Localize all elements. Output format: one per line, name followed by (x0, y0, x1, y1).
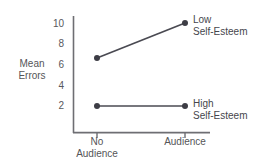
x-category-0-line2: Audience (62, 148, 132, 160)
data-point-low-audience (182, 20, 188, 26)
data-point-high-no-audience (94, 103, 100, 109)
series-label-low-self-esteem: Low Self-Esteem (193, 14, 247, 38)
x-category-label-no-audience: No Audience (62, 136, 132, 160)
y-axis-title: Mean Errors (6, 58, 58, 82)
chart-figure: 10 8 6 4 2 Mean Errors No Audience Audie… (0, 0, 265, 163)
y-tick-label-10: 10 (40, 18, 64, 29)
y-tick-label-2: 2 (40, 100, 64, 111)
series-label-high-line1: High (193, 98, 247, 110)
data-point-low-no-audience (94, 55, 100, 61)
y-axis-title-line2: Errors (6, 70, 58, 82)
x-category-label-audience: Audience (152, 136, 218, 148)
x-category-1-line1: Audience (152, 136, 218, 148)
series-label-low-line1: Low (193, 14, 247, 26)
y-tick-label-8: 8 (40, 38, 64, 49)
series-label-high-line2: Self-Esteem (193, 110, 247, 122)
series-label-low-line2: Self-Esteem (193, 26, 247, 38)
x-category-0-line1: No (62, 136, 132, 148)
series-line-low-self-esteem (97, 23, 185, 58)
y-axis-title-line1: Mean (6, 58, 58, 70)
data-point-high-audience (182, 103, 188, 109)
series-label-high-self-esteem: High Self-Esteem (193, 98, 247, 122)
